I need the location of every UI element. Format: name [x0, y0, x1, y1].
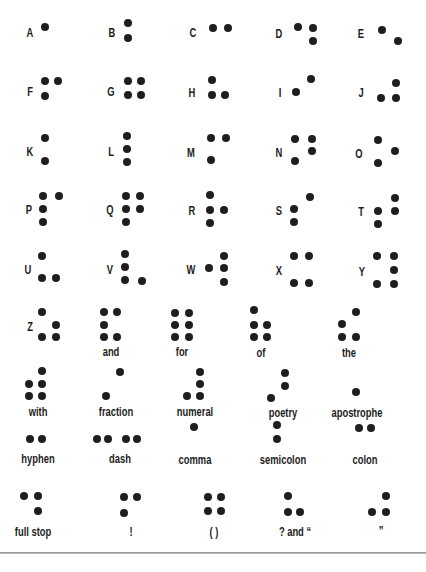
braille-dot-icon — [100, 321, 108, 329]
braille-cell-label: K — [27, 146, 34, 158]
braille-cell-label: X — [276, 265, 282, 277]
braille-dot-icon — [133, 435, 141, 443]
braille-dot-icon — [291, 157, 299, 165]
braille-dot-icon — [124, 19, 132, 27]
braille-chart: ABCDEFGHIJKLMNOPQRSTUVWXYZandforofthewit… — [0, 0, 426, 572]
braille-dot-icon — [39, 218, 47, 226]
braille-dot-icon — [38, 274, 46, 282]
braille-dot-icon — [263, 321, 271, 329]
braille-dot-icon — [38, 392, 46, 400]
braille-dot-icon — [374, 220, 382, 228]
braille-cell-label: E — [358, 28, 364, 40]
braille-dot-icon — [373, 252, 381, 260]
braille-dot-icon — [308, 135, 316, 143]
braille-dot-icon — [217, 507, 225, 515]
braille-dot-icon — [38, 435, 46, 443]
braille-dot-icon — [267, 394, 275, 402]
braille-dot-icon — [309, 37, 317, 45]
braille-dot-icon — [41, 157, 49, 165]
braille-cell-label: and — [103, 346, 120, 358]
braille-dot-icon — [104, 435, 112, 443]
braille-dot-icon — [391, 194, 399, 202]
braille-dot-icon — [390, 266, 398, 274]
braille-dot-icon — [196, 380, 204, 388]
braille-dot-icon — [208, 76, 216, 84]
braille-dot-icon — [374, 207, 382, 215]
braille-cell-label: semicolon — [260, 454, 306, 466]
braille-cell-label: the — [342, 347, 356, 359]
braille-dot-icon — [284, 492, 292, 500]
braille-dot-icon — [137, 91, 145, 99]
braille-dot-icon — [308, 147, 316, 155]
braille-cell-label: ( ) — [210, 526, 219, 538]
braille-dot-icon — [102, 392, 110, 400]
braille-dot-icon — [113, 308, 121, 316]
braille-dot-icon — [41, 92, 49, 100]
braille-cell-label: P — [26, 204, 32, 216]
braille-dot-icon — [55, 192, 63, 200]
braille-dot-icon — [391, 147, 399, 155]
braille-dot-icon — [38, 380, 46, 388]
braille-dot-icon — [123, 158, 131, 166]
braille-dot-icon — [281, 382, 289, 390]
braille-cell-label: D — [276, 28, 283, 40]
braille-cell-label: Z — [27, 321, 33, 333]
braille-cell-label: M — [187, 147, 195, 159]
braille-dot-icon — [390, 252, 398, 260]
braille-dot-icon — [124, 77, 132, 85]
braille-dot-icon — [281, 369, 289, 377]
braille-cell-label: A — [27, 27, 34, 39]
braille-cell-label: O — [355, 148, 362, 160]
braille-dot-icon — [250, 333, 258, 341]
braille-cell-label: for — [176, 346, 188, 358]
braille-dot-icon — [93, 435, 101, 443]
braille-cell-label: ” — [379, 525, 384, 537]
braille-cell-label: poetry — [269, 407, 298, 419]
braille-dot-icon — [185, 333, 193, 341]
braille-cell-label: G — [107, 86, 114, 98]
braille-dot-icon — [171, 333, 179, 341]
braille-dot-icon — [382, 508, 390, 516]
braille-dot-icon — [338, 333, 346, 341]
braille-dot-icon — [113, 333, 121, 341]
braille-dot-icon — [378, 26, 386, 34]
braille-dot-icon — [185, 321, 193, 329]
braille-dot-icon — [206, 206, 214, 214]
braille-dot-icon — [373, 280, 381, 288]
braille-dot-icon — [124, 91, 132, 99]
braille-dot-icon — [120, 509, 128, 517]
braille-cell-label: W — [187, 264, 196, 276]
braille-dot-icon — [224, 24, 232, 32]
braille-dot-icon — [136, 205, 144, 213]
braille-dot-icon — [296, 508, 304, 516]
braille-dot-icon — [34, 507, 42, 515]
braille-dot-icon — [222, 134, 230, 142]
braille-cell-label: ? and “ — [279, 526, 311, 538]
braille-cell-label: full stop — [15, 526, 51, 538]
braille-dot-icon — [394, 37, 402, 45]
braille-cell-label: with — [29, 406, 48, 418]
braille-dot-icon — [290, 252, 298, 260]
braille-dot-icon — [116, 368, 124, 376]
braille-cell-label: S — [276, 205, 282, 217]
braille-dot-icon — [206, 219, 214, 227]
braille-dot-icon — [39, 192, 47, 200]
braille-cell-label: F — [27, 86, 33, 98]
braille-dot-icon — [52, 333, 60, 341]
braille-dot-icon — [309, 24, 317, 32]
braille-dot-icon — [221, 91, 229, 99]
braille-dot-icon — [100, 333, 108, 341]
braille-cell-label: Y — [359, 266, 365, 278]
braille-dot-icon — [138, 277, 146, 285]
braille-dot-icon — [183, 392, 191, 400]
braille-dot-icon — [38, 333, 46, 341]
braille-dot-icon — [39, 205, 47, 213]
braille-dot-icon — [338, 320, 346, 328]
braille-dot-icon — [121, 250, 129, 258]
braille-dot-icon — [137, 77, 145, 85]
braille-dot-icon — [123, 132, 131, 140]
braille-cell-label: ! — [129, 526, 132, 538]
braille-dot-icon — [196, 392, 204, 400]
braille-cell-label: Q — [106, 204, 113, 216]
braille-dot-icon — [171, 309, 179, 317]
